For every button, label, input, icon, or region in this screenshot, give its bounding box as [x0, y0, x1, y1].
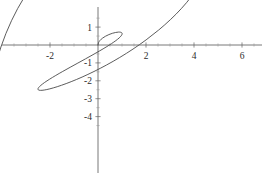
spiral-curve [0, 0, 211, 181]
x-axis-tick-label: 6 [240, 51, 245, 61]
y-axis-tick-label: -3 [84, 94, 92, 104]
y-axis-tick-label: -1 [84, 58, 92, 68]
x-axis-tick-label: -2 [46, 51, 54, 61]
y-axis-tick-label: -4 [84, 112, 92, 122]
x-axis-tick-label: 4 [192, 51, 197, 61]
y-axis-tick-label: -2 [84, 76, 92, 86]
plot-canvas: -22461-1-2-3-4 [0, 0, 263, 181]
polar-spiral-figure: -22461-1-2-3-4 [0, 0, 263, 181]
y-axis-tick-label: 1 [87, 23, 92, 33]
x-axis-tick-label: 2 [144, 51, 149, 61]
